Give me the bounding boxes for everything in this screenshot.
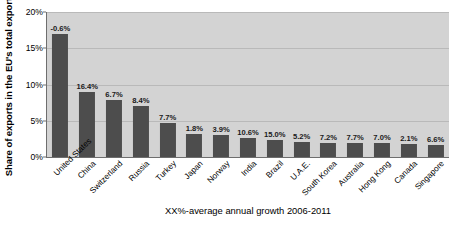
bar-group: 7.7% bbox=[342, 12, 369, 157]
x-axis-category-label: United States bbox=[52, 159, 71, 178]
bar-group: 3.9% bbox=[208, 12, 235, 157]
bar-data-label: 16.4% bbox=[76, 82, 98, 91]
y-axis-tick-label: 5% bbox=[31, 116, 43, 126]
x-axis-title: XX%-average annual growth 2006-2011 bbox=[47, 205, 449, 216]
y-axis-tick-labels: 0%5%10%15%20% bbox=[17, 12, 46, 157]
bar-chart: Share of exports in the EU's total expor… bbox=[0, 0, 455, 225]
bar-data-label: 15.0% bbox=[264, 130, 286, 139]
bar-data-label: 8.4% bbox=[132, 96, 149, 105]
y-axis-tick-label: 0% bbox=[31, 152, 43, 162]
bar bbox=[133, 106, 149, 157]
bar-group: 7.0% bbox=[369, 12, 396, 157]
bar-data-label: 6.7% bbox=[105, 90, 122, 99]
bar-data-label: 3.9% bbox=[213, 125, 230, 134]
y-axis-tick-label: 20% bbox=[26, 7, 43, 17]
bar-data-label: 6.6% bbox=[427, 135, 444, 144]
y-axis-tick-label: 15% bbox=[26, 43, 43, 53]
bar-data-label: 7.0% bbox=[373, 133, 390, 142]
bar bbox=[428, 145, 444, 157]
bar-group: 5.2% bbox=[288, 12, 315, 157]
bar bbox=[52, 34, 68, 157]
bar bbox=[213, 135, 229, 157]
y-axis-title: Share of exports in the EU's total expor… bbox=[0, 0, 18, 168]
bar-data-label: -0.6% bbox=[50, 24, 70, 33]
bar-data-label: 5.2% bbox=[293, 132, 310, 141]
bar-group: 7.2% bbox=[315, 12, 342, 157]
bar-group: 15.0% bbox=[261, 12, 288, 157]
bar bbox=[160, 123, 176, 157]
bar bbox=[186, 134, 202, 157]
bar-data-label: 7.7% bbox=[347, 133, 364, 142]
bar bbox=[267, 140, 283, 157]
bar-data-label: 7.7% bbox=[159, 113, 176, 122]
bar-group: 7.7% bbox=[154, 12, 181, 157]
bar-group: 6.6% bbox=[422, 12, 449, 157]
bar bbox=[347, 143, 363, 157]
x-axis-category-labels: United StatesChinaSwitzerlandRussiaTurke… bbox=[47, 158, 449, 208]
bar-data-label: 10.6% bbox=[237, 128, 259, 137]
bar-data-label: 7.2% bbox=[320, 133, 337, 142]
y-axis-tick-label: 10% bbox=[26, 80, 43, 90]
y-axis-title-text: Share of exports in the EU's total expor… bbox=[4, 0, 15, 176]
bar-group: -0.6% bbox=[47, 12, 74, 157]
bars-layer: -0.6%16.4%6.7%8.4%7.7%1.8%3.9%10.6%15.0%… bbox=[47, 12, 449, 157]
bar-group: 6.7% bbox=[101, 12, 128, 157]
bar-data-label: 2.1% bbox=[400, 134, 417, 143]
bar bbox=[106, 100, 122, 157]
bar-group: 10.6% bbox=[235, 12, 262, 157]
bar-group: 1.8% bbox=[181, 12, 208, 157]
bar bbox=[374, 143, 390, 157]
bar bbox=[294, 142, 310, 157]
bar-group: 2.1% bbox=[395, 12, 422, 157]
bar bbox=[240, 138, 256, 157]
bar bbox=[320, 143, 336, 158]
bar-group: 8.4% bbox=[127, 12, 154, 157]
bar-group: 16.4% bbox=[74, 12, 101, 157]
bar-data-label: 1.8% bbox=[186, 124, 203, 133]
bar bbox=[401, 144, 417, 157]
